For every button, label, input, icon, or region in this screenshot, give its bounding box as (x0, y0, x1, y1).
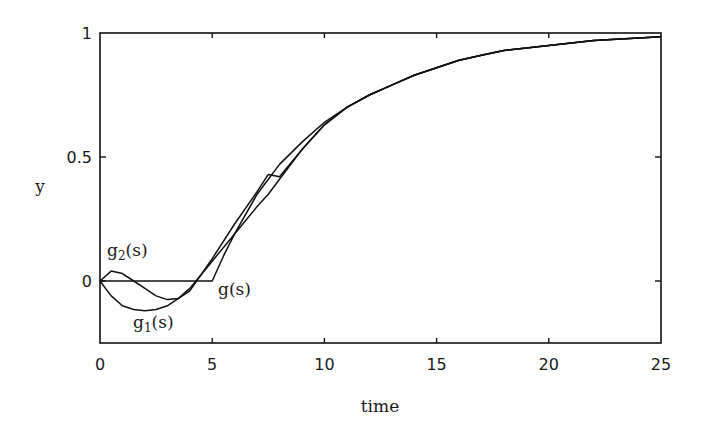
curve-g (100, 37, 661, 281)
curve-label-g: g(s) (218, 279, 251, 299)
x-tick-label: 5 (207, 355, 217, 374)
x-tick-label: 10 (314, 355, 334, 374)
step-response-chart: 051015202500.51 time y g2(s) g(s) g1(s) (0, 0, 705, 446)
x-tick-label: 0 (95, 355, 105, 374)
y-axis-label: y (34, 176, 45, 196)
y-tick-label: 1 (82, 24, 92, 43)
y-tick-label: 0 (82, 272, 92, 291)
curve-g2 (100, 37, 661, 300)
x-axis-label: time (361, 396, 399, 416)
x-tick-label: 20 (539, 355, 559, 374)
x-tick-label: 25 (651, 355, 671, 374)
axis-ticks (100, 33, 661, 343)
x-tick-label: 15 (426, 355, 446, 374)
plot-frame (100, 33, 661, 343)
curves (100, 37, 661, 311)
curve-label-g2: g2(s) (107, 240, 148, 263)
curve-g1 (100, 37, 661, 311)
y-tick-label: 0.5 (67, 148, 92, 167)
curve-label-g1: g1(s) (133, 312, 174, 335)
